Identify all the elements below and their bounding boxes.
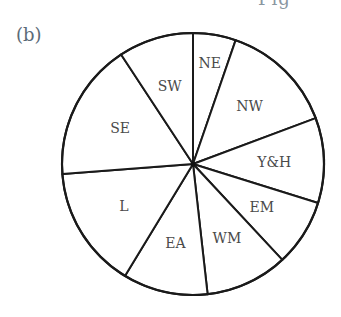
pie-chart: NENWY&HEMWMEALSESW: [0, 0, 341, 317]
slice-label-em: EM: [249, 199, 274, 215]
slice-label-ea: EA: [165, 235, 186, 251]
slice-label-se: SE: [110, 120, 130, 136]
slice-label-nw: NW: [236, 98, 263, 114]
pie-center-dot: [191, 162, 196, 167]
slice-label-ne: NE: [199, 55, 221, 71]
slice-label-yh: Y&H: [256, 154, 291, 170]
slice-label-wm: WM: [213, 230, 242, 246]
slice-label-sw: SW: [158, 78, 183, 94]
slice-label-l: L: [119, 198, 128, 214]
